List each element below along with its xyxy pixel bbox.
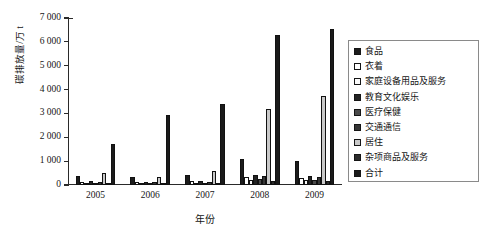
legend-item-label: 合计 <box>365 169 383 178</box>
bar <box>166 115 170 185</box>
legend-swatch-icon <box>354 78 361 85</box>
legend-item[interactable]: 杂项商品及服务 <box>354 150 474 165</box>
bar-group-bars <box>185 18 225 185</box>
y-axis-tick-label: 4 000 <box>40 85 61 95</box>
legend-item[interactable]: 居住 <box>354 135 474 150</box>
bar-groups <box>68 18 342 185</box>
legend-item-label: 交通通信 <box>365 123 401 132</box>
plot-area: 01 0002 0003 0004 0005 0006 0007 000 <box>68 18 342 185</box>
legend-swatch-icon <box>354 48 361 55</box>
bar <box>111 144 115 185</box>
bar-group-bars <box>130 18 170 185</box>
legend-item[interactable]: 教育文化娱乐 <box>354 90 474 105</box>
bar <box>266 109 270 185</box>
legend-item[interactable]: 医疗保健 <box>354 105 474 120</box>
bar-group <box>68 18 123 185</box>
bar <box>330 29 334 185</box>
legend-item[interactable]: 食品 <box>354 44 474 59</box>
bar-group <box>232 18 287 185</box>
legend-swatch-icon <box>354 94 361 101</box>
legend-swatch-icon <box>354 170 361 177</box>
legend-item-label: 衣着 <box>365 62 383 71</box>
bar-group-bars <box>76 18 116 185</box>
legend-swatch-icon <box>354 154 361 161</box>
y-axis-tick-label: 5 000 <box>40 61 61 71</box>
x-axis-tick-label: 2006 <box>123 190 178 200</box>
legend-item-label: 居住 <box>365 138 383 147</box>
y-axis-tick-label: 7 000 <box>40 13 61 23</box>
legend-item-label: 教育文化娱乐 <box>365 93 419 102</box>
x-axis-tick-labels: 20052006200720082009 <box>68 190 342 200</box>
bar-group-bars <box>295 18 335 185</box>
y-axis-tick-label: 1 000 <box>40 156 61 166</box>
legend-swatch-icon <box>354 124 361 131</box>
legend-item[interactable]: 交通通信 <box>354 120 474 135</box>
legend-item[interactable]: 衣着 <box>354 59 474 74</box>
legend-item[interactable]: 家庭设备用品及服务 <box>354 74 474 89</box>
bar-group <box>287 18 342 185</box>
x-axis-tick-label: 2008 <box>232 190 287 200</box>
bar <box>275 35 279 185</box>
bar-group <box>123 18 178 185</box>
bar-group-bars <box>240 18 280 185</box>
legend-swatch-icon <box>354 109 361 116</box>
chart-legend: 食品衣着家庭设备用品及服务教育文化娱乐医疗保健交通通信居住杂项商品及服务合计 <box>348 40 479 182</box>
y-axis-tick-label: 6 000 <box>40 37 61 47</box>
y-axis-tick-label: 3 000 <box>40 109 61 119</box>
x-axis-title: 年份 <box>68 211 342 226</box>
carbon-emission-bar-chart: 碳排放量/万 t 01 0002 0003 0004 0005 0006 000… <box>0 0 485 246</box>
legend-swatch-icon <box>354 63 361 70</box>
legend-swatch-icon <box>354 139 361 146</box>
x-axis-tick-label: 2009 <box>287 190 342 200</box>
legend-item[interactable]: 合计 <box>354 166 474 181</box>
legend-item-label: 杂项商品及服务 <box>365 153 428 162</box>
x-axis-tick-label: 2005 <box>68 190 123 200</box>
legend-item-label: 食品 <box>365 47 383 56</box>
y-axis-tick-label: 2 000 <box>40 133 61 143</box>
bar-group <box>178 18 233 185</box>
x-axis-tick-label: 2007 <box>178 190 233 200</box>
y-axis-tick-label: 0 <box>56 180 61 190</box>
legend-item-label: 家庭设备用品及服务 <box>365 77 446 86</box>
bar <box>321 96 325 185</box>
y-axis-title: 碳排放量/万 t <box>12 0 26 120</box>
legend-item-label: 医疗保健 <box>365 108 401 117</box>
bar <box>220 104 224 185</box>
